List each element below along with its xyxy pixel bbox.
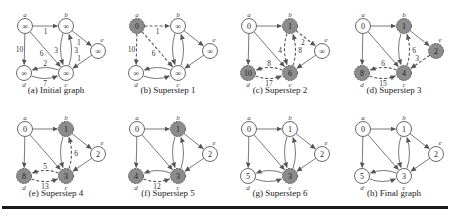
node-value: 8 — [360, 69, 364, 78]
node-a: 0a — [242, 11, 257, 34]
node-name-label: e — [212, 36, 215, 44]
node-value: 4 — [134, 172, 138, 181]
edge-e-c — [73, 158, 92, 171]
panel-caption: (f) Superstep 5 — [112, 188, 224, 198]
panel-caption: (h) Final graph — [338, 188, 450, 198]
node-name-label: a — [361, 114, 365, 122]
node-value: 0 — [247, 125, 251, 134]
edge-d-c — [256, 179, 282, 182]
edge-weight-label: 2 — [301, 38, 305, 47]
edge-a-d — [24, 33, 25, 64]
edge-weight-label: 3 — [415, 54, 419, 63]
node-name-label: b — [64, 11, 68, 19]
node-value: 2 — [434, 150, 438, 159]
panel-caption: (g) Superstep 6 — [224, 188, 336, 198]
node-value: ∞ — [95, 47, 101, 56]
node-name-label: e — [438, 36, 441, 44]
node-e: ∞e — [315, 36, 330, 59]
node-name-label: a — [247, 114, 251, 122]
panel-e: 61350a1b3c8d2e (e) Superstep 4 — [0, 103, 112, 205]
edge-weight-label: 5 — [43, 162, 47, 171]
node-a: 0a — [18, 114, 33, 137]
node-a: 0a — [242, 114, 257, 137]
node-value: ∞ — [63, 22, 69, 31]
node-name-label: a — [23, 11, 27, 19]
node-value: ∞ — [133, 69, 139, 78]
edge-weight-label: 1 — [44, 27, 48, 36]
edge-c-d — [145, 171, 171, 174]
node-value: ∞ — [175, 69, 181, 78]
node-name-label: a — [247, 11, 251, 19]
node-value: ∞ — [319, 47, 325, 56]
node-b: 1b — [171, 114, 186, 137]
edge-b-e — [410, 134, 429, 149]
node-b: 1b — [283, 114, 298, 137]
edge-c-b — [407, 138, 410, 169]
edge-b-c — [173, 137, 176, 168]
panel-caption: (c) Superstep 2 — [224, 85, 336, 95]
node-value: 0 — [23, 125, 27, 134]
edge-b-e — [72, 134, 91, 149]
node-name-label: a — [135, 11, 139, 19]
node-value: 5 — [246, 172, 250, 181]
edge-c-b — [69, 35, 72, 66]
node-a: ∞a — [18, 11, 33, 34]
edge-b-e — [296, 134, 315, 149]
node-name-label: a — [361, 11, 365, 19]
edge-b-c — [399, 137, 402, 168]
node-value: 3 — [176, 172, 180, 181]
edge-a-d — [362, 136, 363, 167]
edge-weight-label: 2 — [43, 59, 47, 68]
edge-weight-label: 8 — [267, 59, 271, 68]
panel-c: 4821780a1b6c10d∞e (c) Superstep 2 — [224, 0, 336, 102]
edge-weight-label: 6 — [74, 149, 78, 158]
node-value: ∞ — [175, 22, 181, 31]
edge-d-c — [370, 179, 396, 182]
node-name-label: b — [288, 11, 292, 19]
edge-b-c — [285, 137, 288, 168]
node-name-label: e — [100, 36, 103, 44]
node-value: 0 — [135, 125, 139, 134]
edge-weight-label: 4 — [278, 46, 282, 55]
edge-weight-label: 3 — [54, 46, 58, 55]
edge-b-e — [184, 134, 203, 149]
edge-b-c — [399, 34, 402, 65]
panel-f: 120a1b3c4d2e (f) Superstep 5 — [112, 103, 224, 205]
node-value: 2 — [320, 150, 324, 159]
panel-caption: (d) Superstep 3 — [338, 85, 450, 95]
node-name-label: e — [100, 139, 103, 147]
node-b: ∞b — [171, 11, 186, 34]
node-e: ∞e — [91, 36, 106, 59]
edge-e-c — [185, 55, 204, 68]
edge-a-d — [136, 33, 137, 64]
edge-weight-label: 6 — [381, 59, 385, 68]
node-value: 5 — [360, 172, 364, 181]
edge-c-b — [181, 138, 184, 169]
edge-b-c — [285, 34, 288, 65]
node-e: 2e — [315, 139, 330, 162]
node-value: ∞ — [207, 47, 213, 56]
node-b: ∞b — [59, 11, 74, 34]
edge-c-d — [145, 68, 171, 71]
edge-b-c — [61, 137, 64, 168]
edge-b-e — [72, 31, 91, 46]
edge-e-c — [411, 158, 430, 171]
node-a: 0a — [356, 114, 371, 137]
node-b: 1b — [397, 114, 412, 137]
edge-a-d — [248, 136, 249, 167]
panel-caption: (b) Superstep 1 — [112, 85, 224, 95]
panel-caption: (e) Superstep 4 — [0, 188, 112, 198]
edge-e-c — [411, 55, 430, 68]
edge-e-c — [185, 158, 204, 171]
node-value: 1 — [288, 125, 292, 134]
edge-a-c — [368, 135, 398, 170]
edge-b-e — [296, 31, 315, 46]
node-b: 1b — [283, 11, 298, 34]
edge-d-c — [144, 76, 170, 79]
node-a: 0a — [356, 11, 371, 34]
node-e: 2e — [429, 36, 444, 59]
edge-a-c — [254, 135, 284, 170]
node-name-label: e — [324, 139, 327, 147]
edge-b-c — [173, 34, 176, 65]
edge-e-c — [73, 55, 92, 68]
